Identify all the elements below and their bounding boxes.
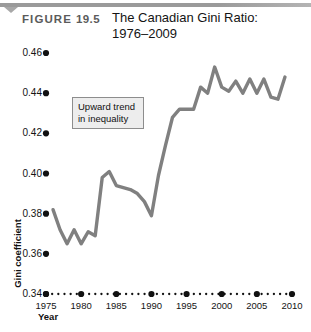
figure-title-line-1: The Canadian Gini Ratio:: [112, 10, 308, 26]
x-axis-tick-label: 2005: [240, 300, 274, 311]
x-axis-tick-label: 2010: [275, 300, 309, 311]
y-axis-tick-dots: [43, 50, 49, 297]
figure-container: FIGURE 19.5 The Canadian Gini Ratio: 197…: [0, 0, 311, 332]
figure-number: 19.5: [76, 13, 100, 25]
x-axis-tick-label: 2000: [205, 300, 239, 311]
top-rule-decoration: [0, 3, 311, 7]
chart-plot-area: 0.340.360.380.400.420.440.46 19751980198…: [0, 40, 311, 310]
annotation-callout: Upward trend in inequality: [72, 97, 144, 129]
x-axis-tick-label: 1975: [29, 300, 63, 311]
x-axis-tick-label: 1990: [134, 300, 168, 311]
y-axis-tick-label: 0.44: [10, 87, 42, 98]
y-axis-tick-label: 0.42: [10, 127, 42, 138]
annotation-line-2: in inequality: [78, 113, 139, 125]
annotation-line-1: Upward trend: [78, 101, 139, 113]
x-axis-tick-label: 1995: [170, 300, 204, 311]
y-axis-tick-label: 0.40: [10, 168, 42, 179]
y-axis-title: Gini coefficient: [12, 214, 23, 294]
y-axis-tick-label: 0.46: [10, 47, 42, 58]
top-notch-icon: [4, 7, 18, 13]
x-axis-tick-label: 1985: [99, 300, 133, 311]
figure-label: FIGURE: [22, 13, 72, 25]
chart-svg: [0, 40, 311, 310]
gini-trend-line: [53, 67, 285, 244]
x-axis-tick-label: 1980: [64, 300, 98, 311]
x-axis-title: Year: [38, 311, 58, 322]
page-title: The Canadian Gini Ratio: 1976–2009: [112, 10, 308, 42]
